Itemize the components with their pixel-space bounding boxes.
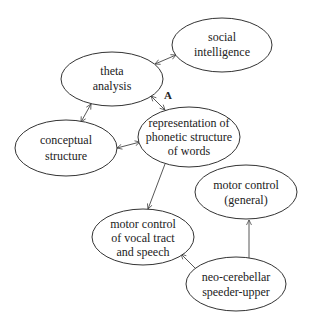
node-text: representation of <box>149 116 230 130</box>
edge-theta-social <box>155 55 176 64</box>
edge-conceptual-representation <box>117 142 140 148</box>
node-text: phonetic structure <box>146 130 232 144</box>
node-text: of vocal tract <box>111 231 175 245</box>
node-text: motor control <box>110 217 176 231</box>
node-neo-cerebellar: neo-cerebellar speeder-upper <box>186 257 286 311</box>
edge-theta-conceptual <box>81 104 91 122</box>
node-representation-phonetic: representation of phonetic structure of … <box>138 107 240 167</box>
node-text: of words <box>168 144 211 158</box>
node-text: (general) <box>224 193 267 207</box>
node-motor-control-vocal: motor control of vocal tract and speech <box>92 209 194 265</box>
edge-representation-motor-vocal <box>148 164 165 209</box>
node-theta-analysis: theta analysis <box>61 52 163 106</box>
node-text: conceptual <box>40 133 93 147</box>
node-text: social <box>208 30 237 44</box>
edge-theta-representation <box>151 96 165 110</box>
node-text: neo-cerebellar <box>202 270 271 284</box>
edge-label-a: A <box>164 89 172 101</box>
node-text: and speech <box>117 245 170 259</box>
edge-neo-motor-vocal <box>181 254 196 269</box>
node-text: speeder-upper <box>202 285 270 299</box>
node-text: intelligence <box>194 45 250 59</box>
node-text: structure <box>45 149 87 163</box>
node-motor-control-general: motor control (general) <box>195 165 297 219</box>
diagram-canvas: A social intelligence theta analysis con… <box>0 0 314 325</box>
node-social-intelligence: social intelligence <box>172 18 272 72</box>
node-conceptual-structure: conceptual structure <box>15 120 117 176</box>
node-text: theta <box>100 64 124 78</box>
node-text: analysis <box>93 79 132 93</box>
node-text: motor control <box>213 178 279 192</box>
